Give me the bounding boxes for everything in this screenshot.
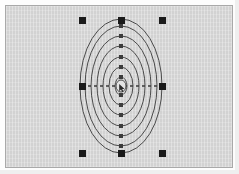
node-dot[interactable] xyxy=(119,113,123,117)
handle-bottom-right[interactable] xyxy=(159,150,166,157)
handle-middle-right[interactable] xyxy=(159,83,166,90)
node-dot[interactable] xyxy=(119,24,123,28)
node-dot[interactable] xyxy=(119,124,123,128)
node-dot[interactable] xyxy=(119,103,123,107)
app-root xyxy=(0,0,239,174)
node-dot[interactable] xyxy=(119,134,123,138)
handle-top-left[interactable] xyxy=(79,17,86,24)
node-dot[interactable] xyxy=(119,65,123,69)
handle-bottom-center[interactable] xyxy=(118,150,125,157)
node-dot[interactable] xyxy=(119,144,123,148)
node-dot[interactable] xyxy=(119,44,123,48)
node-dot[interactable] xyxy=(119,75,123,79)
vector-drawing[interactable] xyxy=(6,6,233,168)
mat-edge-right xyxy=(235,0,239,174)
mat-edge-bottom xyxy=(0,170,239,174)
drawing-canvas[interactable] xyxy=(5,5,233,168)
handle-top-center[interactable] xyxy=(118,17,125,24)
node-dot[interactable] xyxy=(119,34,123,38)
handle-middle-left[interactable] xyxy=(79,83,86,90)
handle-top-right[interactable] xyxy=(159,17,166,24)
handle-bottom-left[interactable] xyxy=(79,150,86,157)
node-dot[interactable] xyxy=(119,93,123,97)
node-dot[interactable] xyxy=(119,55,123,59)
